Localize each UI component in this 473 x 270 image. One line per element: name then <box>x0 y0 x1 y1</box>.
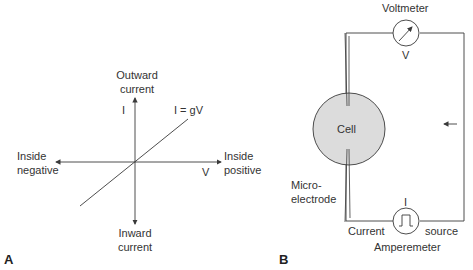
equation-label: I = gV <box>174 103 203 117</box>
iv-line <box>80 119 188 206</box>
source-label: source <box>425 224 458 238</box>
diagram-canvas <box>0 0 473 270</box>
voltmeter-label: Voltmeter <box>382 1 428 15</box>
panel-b-letter: B <box>279 252 288 267</box>
amperemeter-label: Amperemeter <box>374 240 441 254</box>
current-source <box>393 208 419 234</box>
current-label: Current <box>348 224 385 238</box>
microelectrode-label: Micro- electrode <box>291 178 336 206</box>
y-axis-label: I <box>122 103 125 117</box>
voltmeter <box>393 20 419 46</box>
inside-negative-label: Inside negative <box>17 149 59 177</box>
x-axis-label: V <box>202 165 209 179</box>
voltmeter-symbol: V <box>402 48 409 62</box>
panel-a-letter: A <box>4 252 13 267</box>
inward-current-label: Inward current <box>110 226 160 254</box>
outward-current-label: Outward current <box>112 68 162 96</box>
inside-positive-label: Inside positive <box>224 149 261 177</box>
cell-label: Cell <box>337 122 356 136</box>
current-symbol: I <box>404 195 407 209</box>
